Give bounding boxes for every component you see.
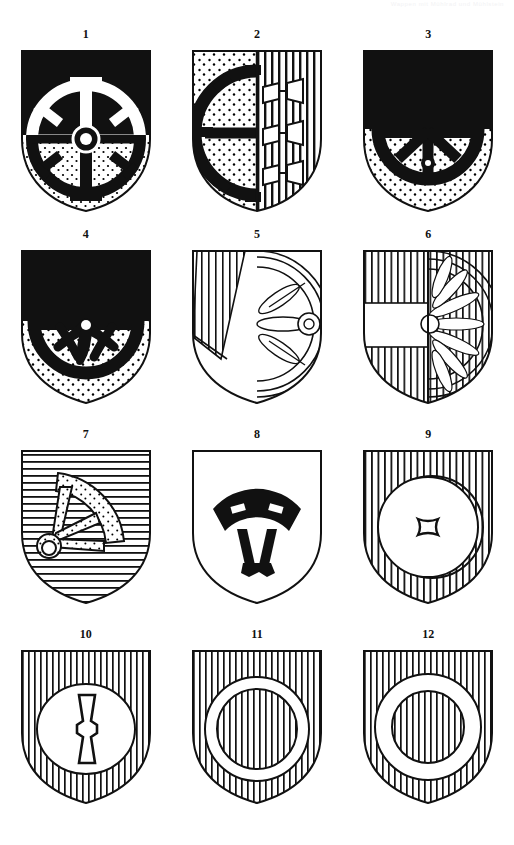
shield-7[interactable] [16, 447, 156, 607]
shield-number: 5 [254, 228, 260, 241]
shield-number: 11 [251, 628, 262, 641]
shield-cell-4: 4 [0, 228, 171, 428]
shield-5[interactable] [187, 247, 327, 407]
shield-number: 8 [254, 428, 260, 441]
shield-number: 3 [425, 28, 431, 41]
shield-number: 10 [80, 628, 92, 641]
shield-4[interactable] [16, 247, 156, 407]
shield-number: 1 [83, 28, 89, 41]
plate-page: Wappen mit Mühlrad und Mühlstein 1 [0, 0, 514, 845]
shield-cell-11: 11 [171, 628, 342, 828]
shield-number: 9 [425, 428, 431, 441]
shield-8-drawing [187, 447, 327, 607]
shield-number: 12 [422, 628, 434, 641]
shield-number: 4 [83, 228, 89, 241]
shield-6[interactable] [358, 247, 498, 407]
shield-cell-8: 8 [171, 428, 342, 628]
shield-1-drawing [16, 47, 156, 215]
shield-5-drawing [187, 247, 327, 407]
shield-7-drawing [16, 447, 156, 607]
shield-cell-9: 9 [343, 428, 514, 628]
shield-12[interactable] [358, 647, 498, 807]
shield-number: 6 [425, 228, 431, 241]
shield-4-drawing [16, 247, 156, 407]
running-header: Wappen mit Mühlrad und Mühlstein [391, 1, 504, 7]
shield-number: 2 [254, 28, 260, 41]
shield-cell-6: 6 [343, 228, 514, 428]
shield-1[interactable] [16, 47, 156, 215]
shield-cell-3: 3 [343, 28, 514, 228]
shield-8[interactable] [187, 447, 327, 607]
shield-9-drawing [358, 447, 498, 607]
shield-6-drawing [358, 247, 498, 407]
shield-cell-7: 7 [0, 428, 171, 628]
shield-9[interactable] [358, 447, 498, 607]
shield-cell-5: 5 [171, 228, 342, 428]
shield-cell-1: 1 [0, 28, 171, 228]
shield-2[interactable] [187, 47, 327, 215]
shield-2-drawing [187, 47, 327, 215]
shield-11-drawing [187, 647, 327, 807]
shield-10[interactable] [16, 647, 156, 807]
shield-cell-2: 2 [171, 28, 342, 228]
shield-number: 7 [83, 428, 89, 441]
shield-11[interactable] [187, 647, 327, 807]
shield-10-drawing [16, 647, 156, 807]
shield-3-drawing [358, 47, 498, 215]
shield-cell-10: 10 [0, 628, 171, 828]
shield-12-drawing [358, 647, 498, 807]
shield-cell-12: 12 [343, 628, 514, 828]
shield-grid: 1 [0, 28, 514, 828]
shield-3[interactable] [358, 47, 498, 215]
